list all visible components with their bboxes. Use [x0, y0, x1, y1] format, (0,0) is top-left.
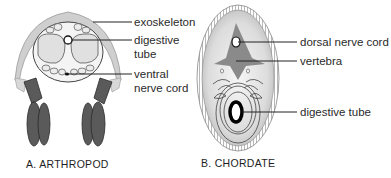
label-digestive-tube: digestive tube: [300, 106, 371, 118]
label-digestive-tube-line2: tube: [134, 48, 156, 60]
label-ventral-nerve-cord-line2: nerve cord: [134, 82, 188, 94]
diagram-arthropod-vs-chordate: exoskeleton digestive tube ventral nerve…: [0, 0, 391, 178]
label-vertebra: vertebra: [300, 55, 342, 67]
caption-arthropod: A. ARTHROPOD: [26, 158, 109, 170]
arthropod-illustration: [15, 12, 121, 146]
diagram-illustration: [0, 0, 391, 178]
label-dorsal-nerve-cord: dorsal nerve cord: [300, 36, 389, 48]
label-digestive-tube-line1: digestive: [134, 34, 179, 46]
label-ventral-nerve-cord-line1: ventral: [134, 68, 169, 80]
chordate-illustration: [197, 5, 279, 151]
label-exoskeleton: exoskeleton: [134, 16, 195, 28]
caption-chordate: B. CHORDATE: [201, 157, 275, 169]
